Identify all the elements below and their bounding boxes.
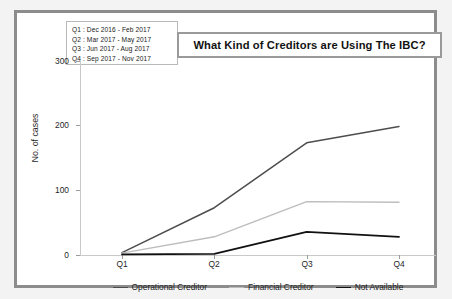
series-legend: Operational Creditor Financial Creditor … [80, 279, 436, 295]
figure-frame: Q1 : Dec 2016 - Feb 2017 Q2 : Mar 2017 -… [14, 10, 437, 288]
quarter-key-line-3: Q3 : Jun 2017 - Aug 2017 [72, 44, 177, 54]
legend-label-operational-creditor: Operational Creditor [132, 282, 207, 292]
quarter-key-line-2: Q2 : Mar 2017 - May 2017 [72, 35, 177, 45]
series-line-operational-creditor [122, 126, 399, 252]
y-tick-label-300: 300 [35, 56, 69, 66]
quarter-key-box: Q1 : Dec 2016 - Feb 2017 Q2 : Mar 2017 -… [66, 21, 178, 65]
series-canvas [80, 61, 436, 255]
y-tick-label-200: 200 [35, 120, 69, 130]
legend-item-operational-creditor: Operational Creditor [113, 282, 207, 292]
y-tick-mark-0 [76, 255, 80, 256]
legend-swatch-operational-creditor [113, 287, 128, 288]
y-tick-label-100: 100 [35, 185, 69, 195]
series-line-financial-creditor [122, 202, 399, 254]
x-tick-label-q2: Q2 [194, 259, 234, 269]
x-tick-label-q3: Q3 [287, 259, 327, 269]
legend-swatch-not-available [336, 287, 351, 288]
plot-area [80, 61, 436, 255]
legend-item-not-available: Not Available [336, 282, 404, 292]
y-tick-label-0: 0 [35, 250, 69, 260]
x-tick-label-q4: Q4 [379, 259, 419, 269]
quarter-key-line-1: Q1 : Dec 2016 - Feb 2017 [72, 25, 177, 35]
y-axis-label: No. of cases [30, 93, 40, 183]
series-line-not-available [122, 232, 399, 254]
x-tick-label-q1: Q1 [102, 259, 142, 269]
chart-title: What Kind of Creditors are Using The IBC… [193, 39, 425, 51]
legend-item-financial-creditor: Financial Creditor [229, 282, 314, 292]
legend-swatch-financial-creditor [229, 287, 244, 288]
chart-title-box: What Kind of Creditors are Using The IBC… [177, 32, 442, 58]
legend-label-not-available: Not Available [355, 282, 404, 292]
legend-label-financial-creditor: Financial Creditor [248, 282, 314, 292]
chart-figure: Q1 : Dec 2016 - Feb 2017 Q2 : Mar 2017 -… [0, 0, 452, 299]
